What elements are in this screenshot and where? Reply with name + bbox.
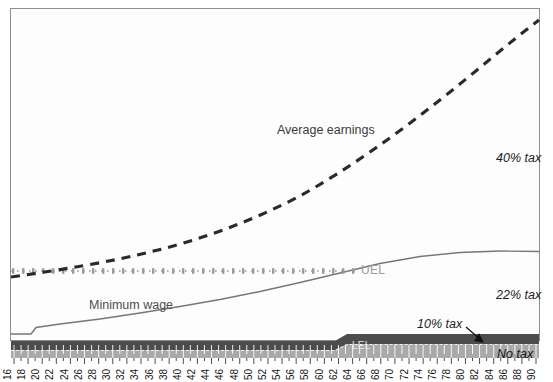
- x-tick-label: 42: [186, 369, 197, 380]
- x-tick-label: 88: [512, 369, 523, 380]
- x-tick-label: 52: [257, 369, 268, 380]
- x-tick-label: 68: [370, 369, 381, 380]
- x-tick-label: 22: [44, 369, 55, 380]
- x-tick-label: 38: [158, 369, 169, 380]
- x-tick-label: 20: [30, 369, 41, 380]
- x-tick-label: 48: [229, 369, 240, 380]
- x-tick-label: 58: [299, 369, 310, 380]
- x-tick-label: 56: [285, 369, 296, 380]
- label-22-percent-tax: 22% tax: [496, 289, 541, 302]
- x-tick-label: 80: [455, 369, 466, 380]
- label-average-earnings: Average earnings: [277, 124, 375, 137]
- x-tick-label: 82: [469, 369, 480, 380]
- x-tick-label: 34: [129, 369, 140, 380]
- x-tick-label: 32: [115, 369, 126, 380]
- x-tick-label: 66: [356, 369, 367, 380]
- x-tick-label: 72: [399, 369, 410, 380]
- x-tick-label: 50: [243, 369, 254, 380]
- x-tick-label: 46: [214, 369, 225, 380]
- label-minimum-wage: Minimum wage: [89, 299, 173, 312]
- x-tick-label: 28: [87, 369, 98, 380]
- x-tick-label: 24: [59, 369, 70, 380]
- x-tick-label: 60: [314, 369, 325, 380]
- x-tick-label: 74: [413, 369, 424, 380]
- x-tick-label: 40: [172, 369, 183, 380]
- chart-container: Average earnings 40% tax 22% tax 10% tax…: [0, 0, 553, 382]
- x-tick-label: 16: [2, 369, 13, 380]
- x-tick-label: 26: [73, 369, 84, 380]
- x-tick-label: 86: [498, 369, 509, 380]
- x-tick-label: 76: [427, 369, 438, 380]
- x-tick-label: 84: [484, 369, 495, 380]
- x-tick-label: 64: [342, 369, 353, 380]
- x-tick-label: 18: [16, 369, 27, 380]
- x-tick-label: 44: [200, 369, 211, 380]
- label-uel: UEL: [361, 264, 385, 276]
- x-tick-label: 90: [526, 369, 537, 380]
- plot-area-frame: [10, 8, 540, 341]
- x-axis-tick-labels: 1618202224262830323436384042444648505254…: [10, 343, 540, 382]
- x-tick-label: 36: [144, 369, 155, 380]
- x-tick-label: 70: [384, 369, 395, 380]
- label-10-percent-tax: 10% tax: [417, 318, 462, 331]
- x-tick-label: 78: [441, 369, 452, 380]
- label-40-percent-tax: 40% tax: [496, 152, 541, 165]
- x-tick-label: 62: [328, 369, 339, 380]
- x-tick-label: 54: [271, 369, 282, 380]
- x-tick-label: 30: [101, 369, 112, 380]
